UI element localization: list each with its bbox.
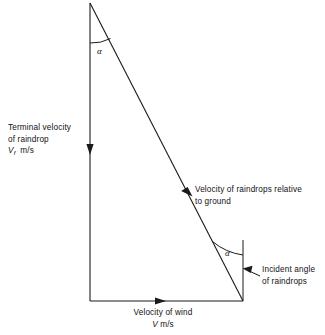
terminal-velocity-label-line3: Vf m/s <box>8 145 71 157</box>
wind-velocity-symbol: V <box>152 320 158 329</box>
relative-velocity-label-line1: Velocity of raindrops relative <box>195 184 302 196</box>
relative-velocity-arrowhead-icon <box>181 187 192 197</box>
relative-velocity-label-line2: to ground <box>195 196 302 208</box>
incident-angle-label-line2: of raindrops <box>262 276 315 288</box>
wind-velocity-label-line1: Velocity of wind <box>103 307 223 319</box>
terminal-velocity-subscript: f <box>14 149 16 156</box>
relative-velocity-vector-line <box>90 3 243 301</box>
terminal-velocity-label: Terminal velocity of raindrop Vf m/s <box>8 122 71 157</box>
terminal-velocity-units: m/s <box>20 146 34 155</box>
terminal-velocity-label-line1: Terminal velocity <box>8 122 71 134</box>
vector-diagram-figure: Terminal velocity of raindrop Vf m/s Vel… <box>0 0 325 335</box>
incident-angle-label-line1: Incident angle <box>262 264 315 276</box>
incident-angle-label: Incident angle of raindrops <box>262 264 315 287</box>
angle-arc-top <box>90 39 111 44</box>
angle-label-top: α <box>97 46 102 56</box>
wind-velocity-label-line2: V m/s <box>103 319 223 331</box>
terminal-velocity-label-line2: of raindrop <box>8 134 71 146</box>
wind-velocity-label: Velocity of wind V m/s <box>103 307 223 330</box>
angle-label-bottom: α <box>225 248 230 258</box>
relative-velocity-label: Velocity of raindrops relative to ground <box>195 184 302 207</box>
incident-angle-leader-arrowhead-icon <box>243 266 253 273</box>
wind-velocity-units: m/s <box>160 320 174 329</box>
terminal-velocity-arrowhead-icon <box>86 144 93 155</box>
terminal-velocity-symbol: V <box>8 146 14 155</box>
wind-velocity-arrowhead-icon <box>155 297 166 304</box>
